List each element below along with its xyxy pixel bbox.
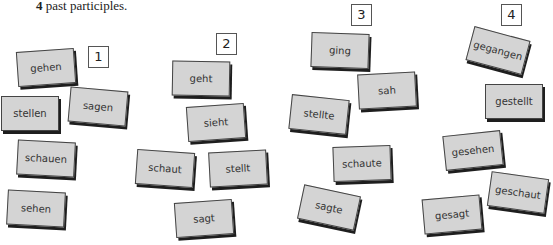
word-card-gehen[interactable]: gehen: [16, 48, 76, 87]
word-card-sagen[interactable]: sagen: [68, 87, 129, 127]
group-box-1: 1: [88, 46, 109, 68]
word-card-schaut[interactable]: schaut: [135, 149, 195, 188]
word-card-stellt[interactable]: stellt: [208, 150, 268, 188]
word-card-schauen[interactable]: schauen: [16, 140, 76, 178]
word-card-sagt[interactable]: sagt: [174, 199, 234, 238]
word-card-sagte[interactable]: sagte: [297, 184, 361, 230]
word-card-gesagt[interactable]: gesagt: [422, 195, 483, 235]
word-card-geht[interactable]: geht: [172, 60, 231, 96]
word-card-gestellt[interactable]: gestellt: [485, 84, 543, 119]
word-card-sieht[interactable]: sieht: [186, 103, 246, 142]
word-card-stellte[interactable]: stellte: [288, 94, 349, 135]
word-card-gesehen[interactable]: gesehen: [442, 130, 503, 171]
word-card-schaute[interactable]: schaute: [332, 145, 391, 182]
word-card-sehen[interactable]: sehen: [6, 190, 66, 228]
word-card-stellen[interactable]: stellen: [1, 96, 59, 131]
group-box-2: 2: [216, 33, 237, 55]
group-box-4: 4: [501, 4, 522, 26]
word-card-geschaut[interactable]: geschaut: [487, 171, 549, 214]
instruction-text: 4 past participles.: [36, 0, 127, 14]
instruction-label: past participles.: [43, 0, 128, 13]
word-card-gegangen[interactable]: gegangen: [465, 26, 530, 75]
word-card-sah[interactable]: sah: [357, 72, 417, 110]
group-box-3: 3: [351, 4, 372, 26]
word-card-ging[interactable]: ging: [310, 32, 369, 69]
